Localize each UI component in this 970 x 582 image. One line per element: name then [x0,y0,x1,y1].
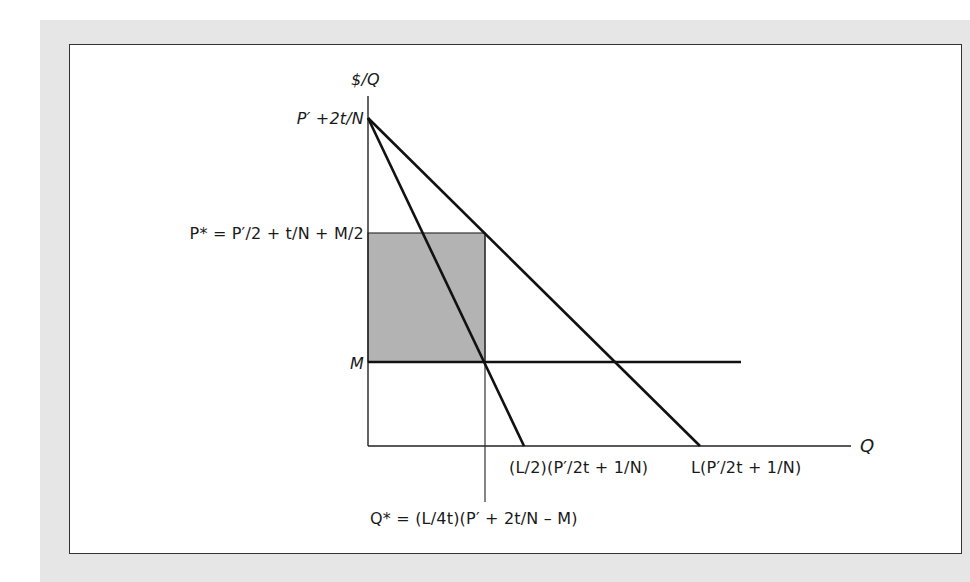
q-star-label: Q* = (L/4t)(P′ + 2t/N – M) [370,511,578,527]
y-axis-label: $/Q [351,72,380,88]
demand-x-intercept-label: L(P′/2t + 1/N) [691,460,801,476]
y-intercept-label: P′ +2t/N [297,111,364,127]
m-label: M [350,356,364,372]
mr-x-intercept-label: (L/2)(P′/2t + 1/N) [509,460,648,476]
monopoly-pricing-diagram [0,0,970,582]
x-axis-label: Q [860,437,874,455]
p-star-label: P* = P′/2 + t/N + M/2 [190,226,364,242]
profit-region [368,233,485,362]
